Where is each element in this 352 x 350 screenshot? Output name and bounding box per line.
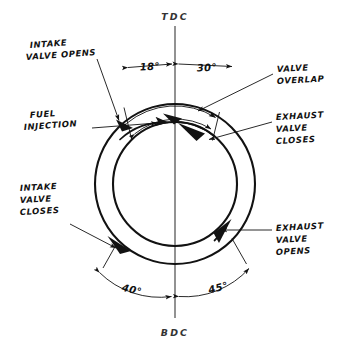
angle-label-30: 30° bbox=[196, 61, 217, 73]
angle-label-18: 18° bbox=[139, 60, 160, 72]
label-exhaust-valve-opens-line1: EXHAUST bbox=[276, 220, 325, 233]
label-exhaust-valve-opens: EXHAUST VALVE OPENS bbox=[276, 220, 325, 257]
label-fuel-injection-line2: INJECTION bbox=[23, 118, 77, 132]
label-intake-valve-closes: INTAKE VALVE CLOSES bbox=[20, 181, 60, 217]
angle-label-45: 45° bbox=[206, 280, 229, 296]
label-intake-valve-opens-line1: INTAKE bbox=[29, 37, 67, 50]
label-exhaust-valve-closes-line2: VALVE bbox=[276, 122, 308, 134]
label-valve-overlap: VALVE OVERLAP bbox=[277, 62, 325, 86]
tdc-label: TDC bbox=[161, 11, 189, 22]
label-exhaust-valve-opens-line2: VALVE bbox=[276, 233, 308, 245]
label-valve-overlap-line1: VALVE bbox=[277, 62, 309, 74]
leader-valve-overlap bbox=[198, 74, 273, 111]
label-fuel-injection-line1: FUEL bbox=[29, 108, 56, 120]
evo-extension-tick bbox=[232, 239, 247, 265]
label-exhaust-valve-closes-line3: CLOSES bbox=[276, 134, 316, 146]
label-intake-valve-closes-line3: CLOSES bbox=[20, 205, 60, 217]
bdc-label: BDC bbox=[161, 327, 189, 338]
valve-timing-diagram: TDC BDC 18° 30° 40° 45° bbox=[0, 0, 352, 350]
timing-diagram-canvas: TDC BDC 18° 30° 40° 45° bbox=[0, 0, 352, 350]
leader-intake-valve-opens bbox=[97, 59, 119, 121]
label-intake-valve-closes-line1: INTAKE bbox=[20, 181, 58, 193]
label-exhaust-valve-closes: EXHAUST VALVE CLOSES bbox=[276, 109, 325, 146]
label-fuel-injection: FUEL INJECTION bbox=[23, 108, 77, 132]
label-exhaust-valve-closes-line1: EXHAUST bbox=[276, 109, 325, 122]
label-intake-valve-opens: INTAKE VALVE OPENS bbox=[25, 37, 96, 62]
label-valve-overlap-line2: OVERLAP bbox=[277, 74, 325, 86]
label-intake-valve-closes-line2: VALVE bbox=[20, 193, 52, 205]
angle-label-40: 40° bbox=[120, 282, 143, 298]
label-exhaust-valve-opens-line3: OPENS bbox=[276, 245, 312, 257]
exhaust-valve-closes-arrowhead bbox=[178, 123, 205, 141]
